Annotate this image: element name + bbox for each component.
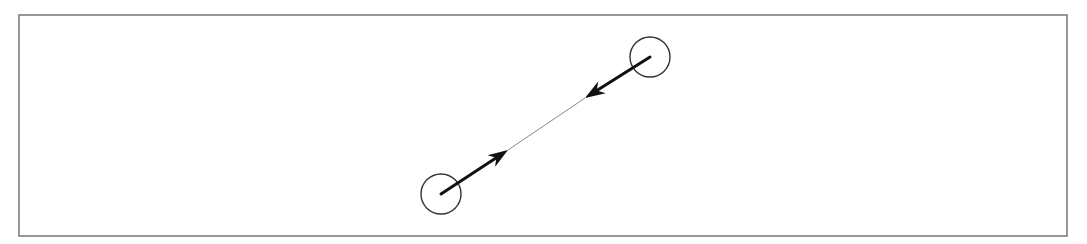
force-arrow-b-shaft [597,57,650,91]
diagram-frame [19,15,1067,236]
connector-line [508,98,585,150]
arrowhead-icon [585,81,606,98]
diagram-canvas [0,0,1087,244]
arrowhead-icon [487,150,508,167]
